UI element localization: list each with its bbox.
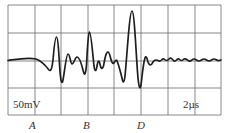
marker-d-label: D [137, 120, 145, 131]
voltage-scale-label: 50mV [13, 99, 41, 110]
time-scale-label: 2µs [183, 99, 199, 110]
signal-trace [8, 11, 221, 88]
oscilloscope-plot [0, 0, 227, 133]
marker-b-label: B [83, 120, 90, 131]
marker-a-label: A [29, 120, 36, 131]
